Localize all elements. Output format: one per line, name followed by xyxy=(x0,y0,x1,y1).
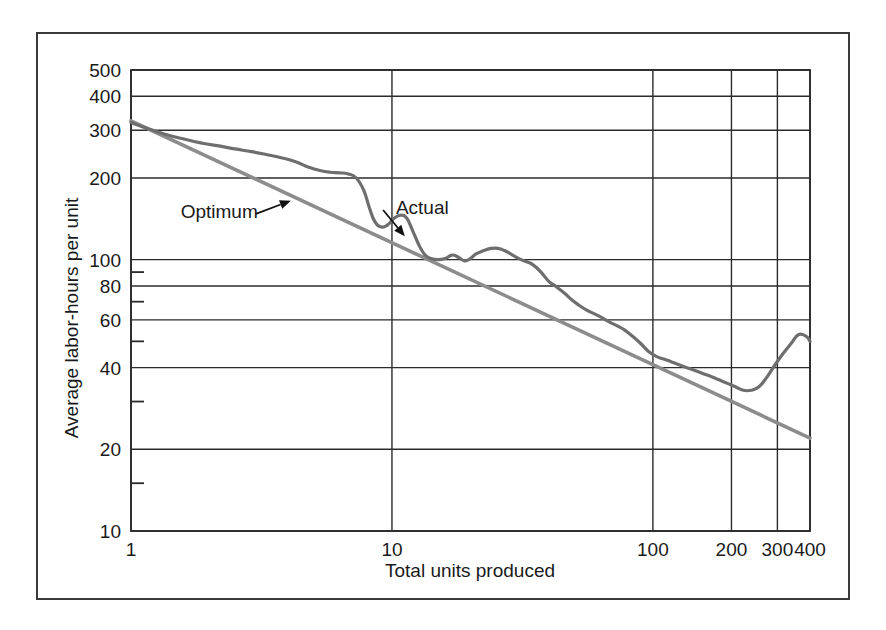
y-tick-label-40: 40 xyxy=(100,358,121,379)
chart-minor-ticks xyxy=(131,272,144,483)
y-tick-label-300: 300 xyxy=(89,120,121,141)
chart-annotations: OptimumActual xyxy=(181,197,449,236)
chart-gridlines xyxy=(131,70,810,531)
y-tick-label-80: 80 xyxy=(100,276,121,297)
plot-frame xyxy=(131,70,810,531)
y-tick-label-400: 400 xyxy=(89,86,121,107)
x-tick-label-300: 300 xyxy=(762,539,794,560)
log-log-learning-curve-chart: 1020406080100200300400500110100200300400… xyxy=(0,0,886,630)
series-line-optimum xyxy=(131,121,810,438)
y-tick-label-60: 60 xyxy=(100,310,121,331)
chart-tick-labels: 1020406080100200300400500110100200300400 xyxy=(89,60,826,560)
x-tick-label-200: 200 xyxy=(716,539,748,560)
annotation-label-optimum: Optimum xyxy=(181,201,258,222)
y-tick-label-10: 10 xyxy=(100,521,121,542)
figure-container: 1020406080100200300400500110100200300400… xyxy=(0,0,886,630)
x-tick-label-400: 400 xyxy=(794,539,826,560)
x-tick-label-10: 10 xyxy=(381,539,402,560)
y-axis-title: Average labor-hours per unit xyxy=(61,197,82,438)
y-tick-label-100: 100 xyxy=(89,250,121,271)
series-line-actual xyxy=(131,123,810,391)
x-tick-label-1: 1 xyxy=(126,539,137,560)
plot-area-border xyxy=(131,70,810,531)
annotation-label-actual: Actual xyxy=(396,197,449,218)
y-tick-label-20: 20 xyxy=(100,439,121,460)
y-tick-label-500: 500 xyxy=(89,60,121,81)
x-tick-label-100: 100 xyxy=(637,539,669,560)
x-axis-title: Total units produced xyxy=(385,560,555,581)
chart-series-layer xyxy=(131,121,810,438)
annotation-arrow-optimum xyxy=(256,205,281,214)
annotation-arrowhead-optimum xyxy=(279,200,291,209)
y-tick-label-200: 200 xyxy=(89,168,121,189)
